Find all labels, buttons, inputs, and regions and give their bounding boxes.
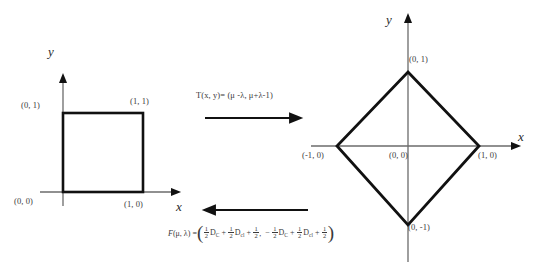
term-4-subscript: C: [284, 232, 288, 238]
right-origin-label: (0, 0): [389, 150, 408, 160]
term-4-fraction: 1 2: [272, 226, 277, 240]
term-4-sign: −: [265, 228, 270, 237]
term-1-subscript: C: [216, 232, 220, 238]
left-vertex-label-0-1: (0, 1): [21, 100, 40, 110]
term-1-numerator: 1: [204, 226, 209, 233]
inverse-formula-group-1: 1 2 DC + 1 2 Dcl + 1 2: [203, 226, 259, 240]
term-2-denominator: 2: [228, 232, 233, 240]
left-vertex-label-1-0: (1, 0): [124, 199, 143, 209]
term-5-fraction: 1 2: [297, 226, 302, 240]
unit-square-outline: [63, 113, 143, 192]
inverse-transform-formula: F (μ, λ) = ( 1 2 DC + 1 2 Dcl + 1 2: [168, 226, 334, 240]
term-5-sign: +: [290, 228, 295, 237]
inverse-formula-args: (μ, λ) =: [173, 229, 197, 238]
term-2: 1 2 Dcl: [228, 228, 247, 237]
term-3-numerator: 1: [253, 226, 258, 233]
term-1: 1 2 DC: [203, 228, 221, 237]
term-3-denominator: 2: [253, 232, 258, 240]
right-x-axis-label: x: [518, 129, 524, 145]
term-4: 1 2 DC: [272, 228, 290, 237]
right-vertex-label-0-1: (0, 1): [409, 54, 428, 64]
forward-transform-formula: T(x, y)= (μ -λ, μ+λ-1): [196, 90, 273, 100]
term-6-denominator: 2: [322, 232, 327, 240]
right-vertex-label-neg1-0: (-1, 0): [302, 150, 324, 160]
left-y-axis-label: y: [48, 44, 54, 60]
unit-square-shape: [63, 113, 143, 192]
term-5-denominator: 2: [297, 232, 302, 240]
term-6-numerator: 1: [322, 226, 327, 233]
right-y-axis-label: y: [386, 12, 392, 28]
term-5: 1 2 Dcl: [296, 228, 315, 237]
term-1-denominator: 2: [204, 232, 209, 240]
term-2-fraction: 1 2: [228, 226, 233, 240]
term-2-numerator: 1: [228, 226, 233, 233]
left-x-axis-label: x: [176, 199, 182, 215]
term-1-fraction: 1 2: [204, 226, 209, 240]
term-4-numerator: 1: [272, 226, 277, 233]
term-4-denominator: 2: [272, 232, 277, 240]
transformation-figure: y x (0, 1) (1, 1) (0, 0) (1, 0) T(x, y)=…: [0, 0, 541, 275]
term-2-sign: +: [221, 228, 226, 237]
left-vertex-label-0-0: (0, 0): [14, 196, 33, 206]
term-2-subscript: cl: [240, 232, 244, 238]
term-3-sign: +: [246, 228, 251, 237]
left-axes: [40, 82, 172, 206]
term-5-numerator: 1: [297, 226, 302, 233]
term-3-fraction: 1 2: [253, 226, 258, 240]
left-vertex-label-1-1: (1, 1): [130, 96, 149, 106]
right-vertex-label-0-neg1: (0, -1): [408, 222, 430, 232]
inverse-formula-separator: ,: [259, 229, 261, 238]
right-vertex-label-1-0: (1, 0): [478, 150, 497, 160]
term-6-fraction: 1 2: [322, 226, 327, 240]
inverse-formula-group-2: − 1 2 DC + 1 2 Dcl + 1 2: [265, 226, 328, 240]
term-5-subscript: cl: [309, 232, 313, 238]
term-6-sign: +: [315, 228, 320, 237]
